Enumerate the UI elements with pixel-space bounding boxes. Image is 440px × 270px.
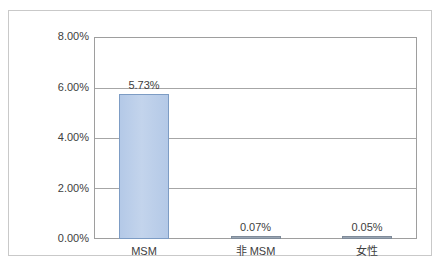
category-label-non-msm: 非 MSM (224, 245, 288, 258)
y-tick-label: 8.00% (17, 31, 89, 42)
plot-area (94, 37, 417, 239)
category-label-msm: MSM (119, 245, 169, 258)
y-tick-label: 6.00% (17, 82, 89, 93)
gridline-6-percent (95, 88, 416, 89)
y-tick-label: 2.00% (17, 183, 89, 194)
chart-outer-frame: 0.00% 2.00% 4.00% 6.00% 8.00% 5.73% 0.07… (8, 10, 432, 256)
x-axis: MSM 非 MSM 女性 (94, 245, 417, 265)
bar-chart-figure: 0.00% 2.00% 4.00% 6.00% 8.00% 5.73% 0.07… (0, 0, 440, 270)
gridline-4-percent (95, 138, 416, 139)
y-tick-label: 0.00% (17, 233, 89, 244)
y-axis: 0.00% 2.00% 4.00% 6.00% 8.00% (14, 37, 89, 239)
y-tick-label: 4.00% (17, 132, 89, 143)
category-label-female: 女性 (342, 245, 392, 258)
gridline-2-percent (95, 188, 416, 189)
